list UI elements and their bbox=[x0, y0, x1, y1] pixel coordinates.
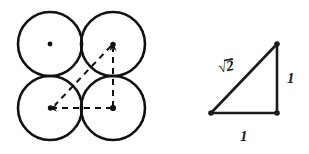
triangle-vertex-bottom-right bbox=[274, 110, 280, 116]
right-triangle-group: √ 2 1 1 bbox=[208, 41, 294, 144]
geometry-figure: √ 2 1 1 bbox=[0, 0, 309, 154]
figure-root: √ 2 1 1 bbox=[0, 0, 309, 154]
horizontal-leg-label: 1 bbox=[240, 128, 248, 144]
center-dot-bottom-left bbox=[48, 105, 53, 110]
center-dot-top-left bbox=[48, 42, 53, 47]
center-dot-bottom-right bbox=[110, 105, 116, 111]
triangle-vertex-bottom-left bbox=[208, 110, 214, 116]
vertical-leg-label: 1 bbox=[287, 70, 295, 86]
triangle-hypotenuse bbox=[211, 44, 277, 113]
center-dot-top-right bbox=[110, 42, 115, 47]
triangle-vertex-top-right bbox=[274, 41, 280, 47]
hypotenuse-label-sqrt2: √ 2 bbox=[217, 57, 236, 76]
four-circle-packing-group bbox=[18, 12, 145, 140]
